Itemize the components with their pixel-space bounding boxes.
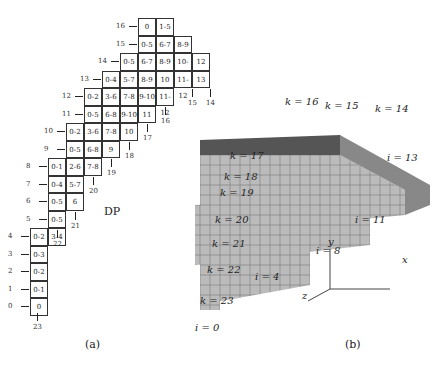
dp-title: DP	[104, 205, 120, 218]
k-label-17: k = 17	[230, 150, 264, 161]
column-label: 16	[161, 117, 170, 125]
row-label: 8	[26, 162, 30, 170]
row-label: 7	[26, 180, 30, 188]
dp-cell: 0	[30, 298, 48, 316]
row-label: 0	[8, 302, 12, 310]
row-label: 9	[44, 145, 48, 153]
i-label-13: i = 13	[387, 152, 418, 163]
row-tick	[75, 114, 83, 115]
dp-cell: 11	[138, 106, 156, 124]
i-label-4: i = 4	[255, 271, 279, 282]
dp-cell: 9-10	[138, 88, 156, 106]
row-label: 12	[62, 92, 71, 100]
dp-cell: 0-3	[30, 246, 48, 264]
dp-cell: 5-7	[120, 71, 138, 89]
dp-cell: 7-8	[102, 123, 120, 141]
dp-cell: 5-7	[66, 176, 84, 194]
axis-y-label: y	[327, 236, 334, 247]
column-tick	[75, 212, 76, 220]
dp-cell: 0-4	[48, 176, 66, 194]
row-label: 11	[62, 110, 71, 118]
row-label: 3	[8, 250, 12, 258]
dp-cell: 8-9	[174, 36, 192, 54]
column-tick	[129, 142, 130, 150]
column-tick	[57, 230, 58, 238]
row-tick	[39, 166, 47, 167]
caption-b: (b)	[345, 338, 361, 351]
dp-cell: 10	[156, 71, 174, 89]
dp-cell: 6-8	[84, 141, 102, 159]
k-label-21: k = 21	[212, 238, 246, 249]
axes-icon	[308, 249, 390, 301]
row-label: 16	[116, 22, 125, 30]
row-tick	[57, 131, 65, 132]
column-tick	[165, 107, 166, 115]
i-label-11: i = 11	[355, 214, 386, 225]
row-tick	[129, 26, 137, 27]
row-tick	[93, 79, 101, 80]
row-tick	[21, 236, 29, 237]
dp-cell: 9	[102, 141, 120, 159]
dp-cell: 11-12	[156, 88, 174, 106]
dp-cell: 7-8	[84, 158, 102, 176]
dp-cell: 0-5	[48, 211, 66, 229]
row-label: 4	[8, 232, 12, 240]
dp-cell: 0-5	[48, 193, 66, 211]
k-label-22: k = 22	[207, 264, 241, 275]
k-label-16: k = 16	[285, 96, 319, 107]
dp-cell: 12	[192, 53, 210, 71]
dp-cell: 10	[120, 123, 138, 141]
dp-cell: 3-6	[84, 123, 102, 141]
row-tick	[21, 271, 29, 272]
dp-cell: 0-2	[84, 88, 102, 106]
column-label: 21	[71, 222, 80, 230]
dp-cell: 8-9	[138, 71, 156, 89]
row-label: 5	[26, 215, 30, 223]
dp-cell: 7-8	[120, 88, 138, 106]
row-tick	[21, 254, 29, 255]
k-label-19: k = 19	[220, 187, 254, 198]
dp-cell: 0	[138, 18, 156, 36]
row-tick	[39, 184, 47, 185]
dp-cell: 0-1	[30, 281, 48, 299]
dp-cell: 6-8	[102, 106, 120, 124]
row-label: 15	[116, 40, 125, 48]
dp-cell: 13	[192, 71, 210, 89]
dp-cell: 0-2	[30, 263, 48, 281]
row-tick	[39, 219, 47, 220]
row-label: 2	[8, 267, 12, 275]
dp-cell: 6-7	[156, 36, 174, 54]
dp-cell: 3-6	[102, 88, 120, 106]
column-label: 20	[89, 187, 98, 195]
axis-z-label: z	[301, 290, 308, 301]
k-label-23: k = 23	[200, 295, 234, 306]
dp-cell: 0-5	[138, 36, 156, 54]
k-label-15: k = 15	[325, 100, 359, 111]
dp-cell: 0-5	[120, 53, 138, 71]
row-tick	[75, 96, 83, 97]
column-label: 18	[125, 152, 134, 160]
dp-cell: 6	[66, 193, 84, 211]
row-tick	[21, 289, 29, 290]
k-label-20: k = 20	[215, 214, 249, 225]
row-label: 6	[26, 197, 30, 205]
column-label: 22	[53, 240, 62, 248]
dp-cell: 0-4	[102, 71, 120, 89]
row-tick	[129, 44, 137, 45]
row-tick	[39, 201, 47, 202]
dp-cell: 0-2	[66, 123, 84, 141]
k-label-18: k = 18	[224, 171, 258, 182]
axis-x-label: x	[402, 254, 408, 265]
dp-cell: 11-12	[174, 71, 192, 89]
row-tick	[111, 61, 119, 62]
row-tick	[21, 306, 29, 307]
row-label: 14	[98, 57, 107, 65]
row-tick	[57, 149, 65, 150]
column-label: 23	[33, 323, 42, 331]
row-label: 10	[44, 127, 53, 135]
column-tick	[147, 124, 148, 132]
k-label-14: k = 14	[375, 103, 409, 114]
dp-cell: 8-9	[156, 53, 174, 71]
dp-cell: 0-5	[66, 141, 84, 159]
column-tick	[111, 159, 112, 167]
